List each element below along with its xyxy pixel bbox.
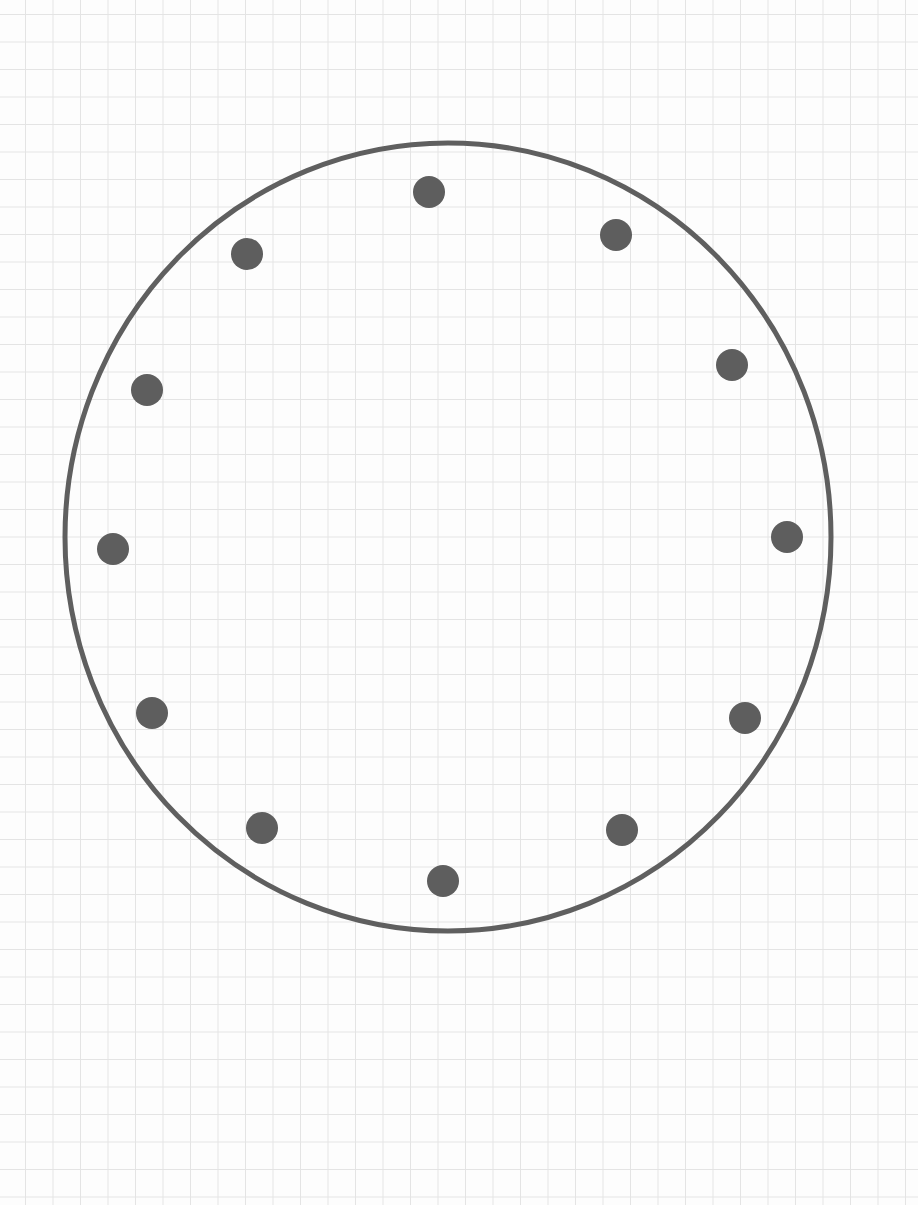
dot-9 [136, 697, 168, 729]
dot-7 [427, 865, 459, 897]
circle-diagram [0, 0, 918, 1205]
outer-circle [65, 143, 831, 931]
dot-4 [771, 521, 803, 553]
dots-group [97, 176, 803, 897]
dot-1 [413, 176, 445, 208]
dot-2 [600, 219, 632, 251]
dot-11 [131, 374, 163, 406]
dot-6 [606, 814, 638, 846]
dot-3 [716, 349, 748, 381]
dot-8 [246, 812, 278, 844]
dot-10 [97, 533, 129, 565]
dot-12 [231, 238, 263, 270]
grid-paper [0, 0, 918, 1205]
dot-5 [729, 702, 761, 734]
